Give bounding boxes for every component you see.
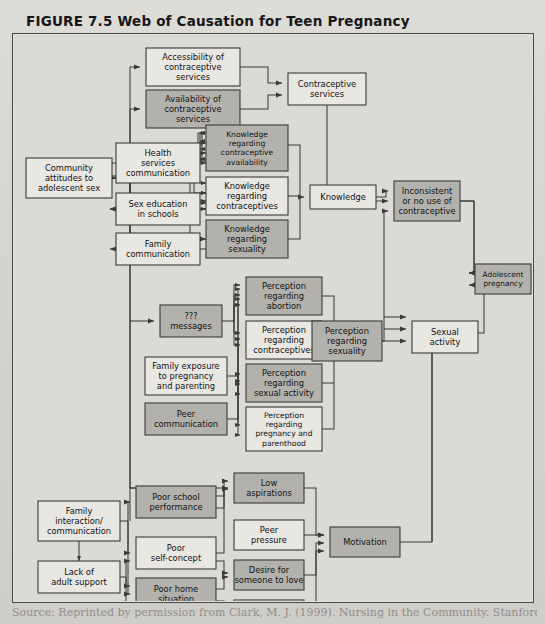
node-know_sex: Knowledgeregardingsexuality	[206, 220, 288, 258]
node-family_exposure: Family exposureto pregnancyand parenting	[145, 357, 227, 395]
node-know_avail: Knowledgeregardingcontraceptiveavailabil…	[206, 125, 288, 171]
node-label: Perceptionregardingsexuality	[325, 326, 369, 356]
node-poor_home: Poor homesituation	[136, 578, 216, 601]
node-sex_education: Sex educationin schools	[116, 193, 200, 225]
node-label: Poor homesituation	[154, 584, 198, 601]
node-knowledge: Knowledge	[310, 185, 376, 209]
node-availability: Availability ofcontraceptiveservices	[146, 90, 240, 128]
node-box	[234, 600, 304, 601]
node-community: Communityattitudes toadolescent sex	[26, 158, 112, 198]
node-label: Sexualactivity	[430, 327, 461, 347]
node-label: Inconsistentor no use ofcontraceptive	[398, 186, 455, 216]
node-desire_love: Desire forsomeone to love	[234, 560, 304, 590]
node-label: Motivation	[343, 537, 387, 547]
node-peer_comm: Peercommunication	[145, 403, 227, 435]
node-perc_contra: Perceptionregardingcontraceptives	[246, 321, 322, 359]
node-motivation: Motivation	[330, 527, 400, 557]
node-lack_support: Lack ofadult support	[38, 561, 120, 593]
node-perc_sexact: Perceptionregardingsexual activity	[246, 364, 322, 402]
node-know_contra: Knowledgeregardingcontraceptives	[206, 177, 288, 215]
node-contraceptive_services: Contraceptiveservices	[288, 73, 366, 105]
node-perc_abortion: Perceptionregardingabortion	[246, 277, 322, 315]
node-label: Family exposureto pregnancyand parenting	[152, 361, 219, 391]
node-family_comm: Familycommunication	[116, 233, 200, 265]
node-label: Knowledgeregardingcontraceptiveavailabil…	[221, 130, 274, 167]
node-low_asp: Lowaspirations	[234, 473, 304, 503]
node-media_messages: ???messages	[160, 305, 222, 337]
node-inconsistent: Inconsistentor no use ofcontraceptive	[394, 181, 460, 221]
causation-web-diagram: Communityattitudes toadolescent sexAcces…	[12, 33, 532, 601]
diagram-nodes: Communityattitudes toadolescent sexAcces…	[26, 48, 531, 601]
figure-source: Source: Reprinted by permission from Cla…	[12, 606, 537, 624]
node-desire_away: Desire toget away	[234, 600, 304, 601]
node-adolescent_preg: Adolescentpregnancy	[475, 264, 531, 294]
node-peer_pressure: Peerpressure	[234, 520, 304, 550]
node-label: Communityattitudes toadolescent sex	[38, 163, 100, 193]
node-sexual_activity: Sexualactivity	[412, 321, 478, 353]
node-accessibility: Accessibility ofcontraceptiveservices	[146, 48, 240, 86]
node-label: Perceptionregardingabortion	[262, 281, 306, 311]
figure-page: FIGURE 7.5 Web of Causation for Teen Pre…	[0, 0, 545, 624]
node-label: Perceptionregardingpregnancy andparentho…	[256, 411, 313, 448]
node-label: Knowledge	[320, 192, 366, 202]
node-perc_pregpar: Perceptionregardingpregnancy andparentho…	[246, 407, 322, 451]
node-label: Poor schoolperformance	[149, 492, 202, 512]
node-label: Adolescentpregnancy	[483, 270, 524, 288]
node-poor_self: Poorself-concept	[136, 537, 216, 569]
figure-title: FIGURE 7.5 Web of Causation for Teen Pre…	[26, 13, 410, 29]
node-family_inter: Familyinteraction/communication	[38, 501, 120, 541]
node-label: Knowledgeregardingsexuality	[224, 224, 270, 254]
node-poor_school: Poor schoolperformance	[136, 486, 216, 518]
node-health_services: Healthservicescommunication	[116, 143, 200, 183]
node-perc_sexuality: Perceptionregardingsexuality	[312, 321, 382, 361]
